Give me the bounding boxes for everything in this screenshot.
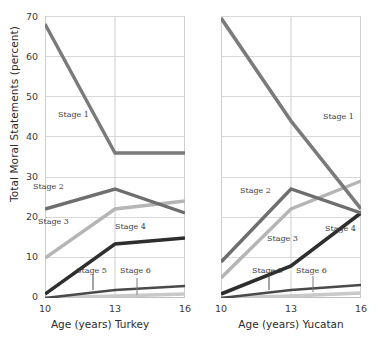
y-tick-60: 60 xyxy=(16,51,38,62)
y-tick-0: 0 xyxy=(16,291,38,302)
x-axis-title-yucatan: Age (years) Yucatan xyxy=(196,318,386,330)
panel-turkey: 70 60 50 40 30 20 10 0 xyxy=(0,0,200,337)
x-tick-10-turkey: 10 xyxy=(30,303,60,314)
annotation-stage5-yucatan: Stage 5 xyxy=(252,266,283,275)
annotation-stage4-yucatan: Stage 4 xyxy=(325,224,356,233)
y-tick-50: 50 xyxy=(16,91,38,102)
annotation-stage3-yucatan: Stage 3 xyxy=(267,234,298,243)
x-tick-13-turkey: 13 xyxy=(100,303,130,314)
panel-yucatan: Stage 1 Stage 2 Stage 3 Stage 4 Stage 5 … xyxy=(196,0,390,337)
plot-area-turkey xyxy=(45,16,185,298)
annotation-stage1-turkey: Stage 1 xyxy=(58,110,89,119)
x-axis-title-turkey: Age (years) Turkey xyxy=(0,318,200,330)
annotation-stage6-turkey: Stage 6 xyxy=(120,266,151,275)
x-tick-13-yucatan: 13 xyxy=(276,303,306,314)
annotation-stage4-turkey: Stage 4 xyxy=(115,222,146,231)
x-tick-16-yucatan: 16 xyxy=(346,303,376,314)
chart-figure: Total Moral Statements (percent) 70 60 5… xyxy=(0,0,390,337)
y-tick-30: 30 xyxy=(16,171,38,182)
annotation-stage2-yucatan: Stage 2 xyxy=(240,186,271,195)
plot-area-yucatan xyxy=(221,16,361,298)
annotation-stage2-turkey: Stage 2 xyxy=(33,182,64,191)
annotation-stage3-turkey: Stage 3 xyxy=(38,217,69,226)
y-tick-10: 10 xyxy=(16,251,38,262)
gridlines-vertical xyxy=(46,16,185,298)
x-tick-10-yucatan: 10 xyxy=(206,303,236,314)
y-tick-40: 40 xyxy=(16,131,38,142)
y-tick-70: 70 xyxy=(16,11,38,22)
annotation-stage6-yucatan: Stage 6 xyxy=(296,266,327,275)
annotation-stage1-yucatan: Stage 1 xyxy=(323,112,354,121)
y-tick-20: 20 xyxy=(16,211,38,222)
annotation-stage5-turkey: Stage 5 xyxy=(76,266,107,275)
